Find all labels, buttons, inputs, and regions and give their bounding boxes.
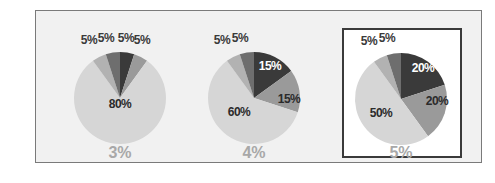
slice-label: 20% bbox=[426, 94, 449, 108]
slice-label: 50% bbox=[370, 106, 393, 120]
slice-label: 5% bbox=[118, 31, 135, 45]
slice-label: 5% bbox=[214, 33, 231, 47]
pie-charts: 5%5%80%5%5%3%15%15%60%5%5%4%20%20%50%5%5… bbox=[0, 0, 495, 183]
pie-chart-3: 20%20%50%5%5%5% bbox=[355, 31, 449, 161]
slice-label: 5% bbox=[379, 31, 396, 45]
slice-label: 80% bbox=[109, 97, 132, 111]
slice-label: 15% bbox=[278, 92, 301, 106]
slice-label: 60% bbox=[228, 105, 251, 119]
slice-label: 5% bbox=[361, 34, 378, 48]
slice-label: 5% bbox=[98, 31, 115, 45]
slice-label: 20% bbox=[412, 61, 435, 75]
slice-label: 5% bbox=[81, 33, 98, 47]
slice-label: 15% bbox=[259, 59, 282, 73]
slice-label: 5% bbox=[134, 33, 151, 47]
pie-caption: 3% bbox=[108, 144, 131, 161]
pie-caption: 5% bbox=[389, 144, 412, 161]
pie-caption: 4% bbox=[242, 144, 265, 161]
slice-label: 5% bbox=[232, 31, 249, 45]
pie-chart-1: 5%5%80%5%5%3% bbox=[74, 31, 166, 161]
pie-chart-2: 15%15%60%5%5%4% bbox=[208, 31, 301, 161]
